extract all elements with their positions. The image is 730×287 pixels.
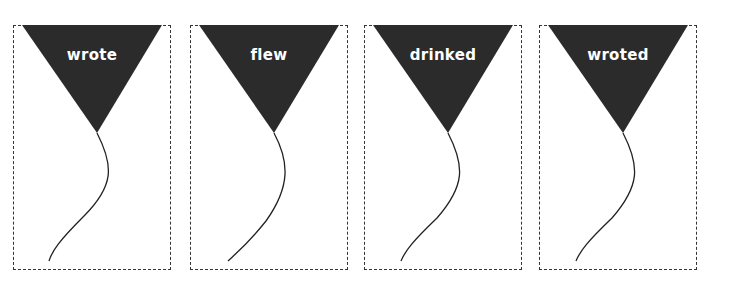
pennant-word: wroted <box>540 46 696 64</box>
pennant-card-2: flew <box>190 25 348 270</box>
pennant-card-4: wroted <box>539 25 697 270</box>
pennant-word: drinked <box>365 46 521 64</box>
pennant-word: wrote <box>14 46 170 64</box>
pennant-card-1: wrote <box>13 25 171 270</box>
pennant-card-3: drinked <box>364 25 522 270</box>
pennant-word: flew <box>191 46 347 64</box>
